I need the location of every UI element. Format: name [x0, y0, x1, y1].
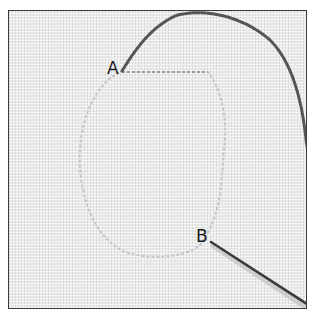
- label-b: B: [196, 228, 208, 245]
- needle-shadow: [213, 246, 310, 310]
- thread: [122, 13, 312, 175]
- illustration: [0, 0, 317, 318]
- label-a: A: [107, 60, 119, 77]
- needle: [211, 242, 310, 306]
